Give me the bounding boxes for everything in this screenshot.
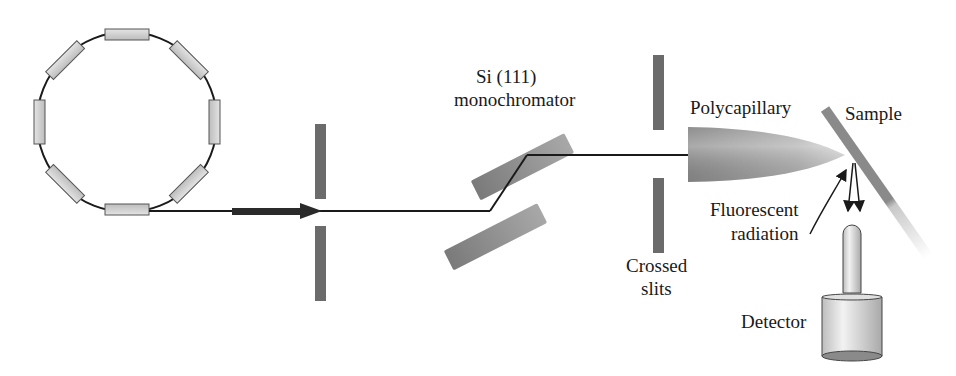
magnet-icon <box>169 41 208 80</box>
slit-lower <box>315 226 326 301</box>
detector-label: Detector <box>741 311 807 332</box>
magnet-icon <box>169 164 208 203</box>
crossed-slits-label-1: Crossed <box>626 255 688 276</box>
detector-window <box>822 351 882 361</box>
monochromator-label-2: monochromator <box>454 89 576 110</box>
pointer-arrow-icon <box>810 170 846 234</box>
storage-ring <box>34 29 220 215</box>
sample <box>821 106 932 259</box>
fluorescent-radiation <box>810 163 860 234</box>
polycapillary-label: Polycapillary <box>690 97 792 118</box>
fluorescence-arrow-icon <box>848 163 853 211</box>
beamline-diagram: Si (111) monochromator Crossed slits Pol… <box>0 0 956 376</box>
fluorescent-label-1: Fluorescent <box>710 199 799 220</box>
beam-arrow-icon <box>232 203 322 219</box>
magnet-icon <box>46 41 85 80</box>
sample-plate <box>821 106 932 259</box>
detector-body <box>822 297 882 356</box>
magnet-icon <box>46 164 85 203</box>
slit-upper <box>315 124 326 199</box>
magnet-icon <box>209 100 220 144</box>
crossed-slit-lower <box>653 178 664 253</box>
crossed-slits-label-2: slits <box>641 278 672 299</box>
magnet-icon <box>34 100 45 144</box>
crystal-lower <box>444 203 548 270</box>
magnet-icon <box>105 204 149 215</box>
fluorescence-arrow-icon <box>855 163 860 211</box>
crystal-upper <box>471 133 575 200</box>
sample-label: Sample <box>845 103 902 124</box>
polycapillary-optic <box>688 127 845 182</box>
bending-magnets <box>34 29 220 215</box>
monochromator-label-1: Si (111) <box>476 66 536 88</box>
crossed-slit-upper <box>653 55 664 130</box>
detector-snout <box>843 225 861 293</box>
fluorescent-label-2: radiation <box>731 223 799 244</box>
detector <box>822 225 882 361</box>
magnet-icon <box>105 29 149 40</box>
